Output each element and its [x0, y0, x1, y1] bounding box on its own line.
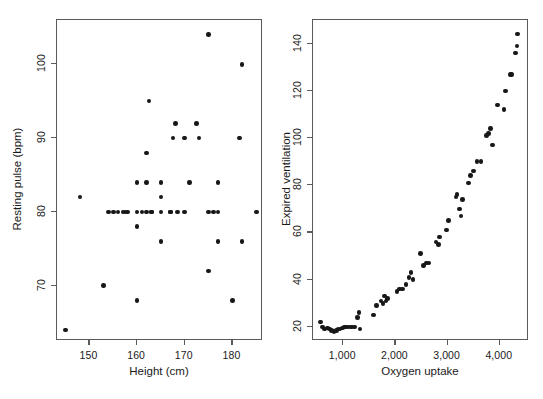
y-axis-tick-label-left: 100: [35, 54, 47, 72]
data-point: [515, 44, 520, 49]
data-point: [490, 143, 495, 148]
data-point: [502, 107, 507, 112]
x-axis-tick-left: [136, 340, 137, 345]
x-axis-tick-left: [231, 340, 232, 345]
data-point: [385, 296, 390, 301]
data-point: [111, 210, 116, 215]
data-point: [175, 210, 180, 215]
data-point: [488, 126, 493, 131]
data-point: [437, 235, 442, 240]
data-point: [144, 151, 149, 156]
x-axis-tick-right: [447, 340, 448, 345]
x-axis-tick-left: [88, 340, 89, 345]
y-axis-tick-right: [307, 43, 312, 44]
data-point: [455, 192, 460, 197]
data-point: [358, 327, 363, 332]
data-point: [194, 121, 199, 126]
y-axis-tick-label-right: 60: [291, 225, 303, 237]
data-point: [371, 313, 376, 318]
x-axis-tick-label-left: 170: [175, 349, 193, 361]
x-axis-title-right: Oxygen uptake: [381, 365, 458, 377]
data-point: [404, 282, 409, 287]
data-point: [400, 287, 405, 292]
data-point: [135, 180, 140, 185]
data-point: [509, 72, 514, 77]
data-point: [240, 239, 245, 244]
data-point: [468, 173, 473, 178]
plot-frame-left: [56, 19, 262, 340]
y-axis-tick-label-right: 20: [291, 320, 303, 332]
y-axis-tick-right: [307, 279, 312, 280]
y-axis-title-left: Resting pulse (bpm): [11, 128, 23, 231]
data-point: [479, 159, 484, 164]
data-point: [159, 239, 164, 244]
x-axis-tick-label-left: 180: [223, 349, 241, 361]
data-point: [446, 218, 451, 223]
y-axis-tick-right: [307, 326, 312, 327]
data-point: [444, 228, 449, 233]
data-point: [216, 180, 221, 185]
y-axis-tick-label-left: 90: [35, 131, 47, 143]
data-point: [459, 214, 464, 219]
data-point: [513, 51, 518, 56]
data-point: [471, 169, 476, 174]
data-point: [436, 242, 441, 247]
data-point: [159, 180, 164, 185]
plot-frame-right: [312, 19, 528, 340]
y-axis-tick-left: [51, 211, 56, 212]
data-point: [418, 251, 423, 256]
data-point: [427, 261, 432, 266]
x-axis-tick-label-right: 3,000: [433, 349, 460, 361]
y-axis-tick-right: [307, 137, 312, 138]
panel-resting-pulse: 150160170180708090100 Height (cm) Restin…: [0, 0, 272, 399]
data-point: [240, 62, 245, 67]
x-axis-tick-label-left: 150: [80, 349, 98, 361]
data-point: [144, 180, 149, 185]
y-axis-tick-left: [51, 63, 56, 64]
y-axis-tick-label-left: 70: [35, 279, 47, 291]
data-point: [409, 270, 414, 275]
data-point: [78, 195, 83, 200]
scatterplot-figure: 150160170180708090100 Height (cm) Restin…: [0, 0, 543, 399]
data-point: [182, 210, 187, 215]
y-axis-tick-label-right: 120: [291, 81, 303, 99]
data-point: [503, 89, 508, 94]
data-point: [182, 136, 187, 141]
data-point: [254, 210, 259, 215]
data-point: [63, 328, 68, 333]
data-point: [466, 181, 471, 186]
data-point: [168, 210, 173, 215]
data-point: [352, 325, 357, 330]
y-axis-tick-label-right: 140: [291, 34, 303, 52]
x-axis-tick-label-right: 2,000: [381, 349, 408, 361]
data-point: [237, 136, 242, 141]
x-axis-tick-right: [394, 340, 395, 345]
data-point: [206, 269, 211, 274]
data-point: [149, 210, 154, 215]
x-axis-title-left: Height (cm): [129, 365, 188, 377]
x-axis-tick-right: [342, 340, 343, 345]
y-axis-tick-right: [307, 90, 312, 91]
data-point: [357, 310, 362, 315]
x-axis-tick-right: [499, 340, 500, 345]
data-point: [159, 210, 164, 215]
y-axis-tick-label-left: 80: [35, 205, 47, 217]
data-point: [135, 224, 140, 229]
data-points-left: [57, 20, 261, 339]
data-point: [159, 195, 164, 200]
data-point: [515, 32, 520, 37]
data-point: [355, 315, 360, 320]
data-point: [216, 210, 221, 215]
data-point: [318, 320, 323, 325]
y-axis-tick-label-right: 40: [291, 273, 303, 285]
data-point: [460, 197, 465, 202]
y-axis-tick-left: [51, 285, 56, 286]
data-point: [135, 210, 140, 215]
data-point: [230, 298, 235, 303]
panel-expired-ventilation: 1,0002,0003,0004,00020406080100120140 Ox…: [272, 0, 543, 399]
data-point: [495, 103, 500, 108]
data-point: [171, 136, 176, 141]
data-point: [206, 32, 211, 37]
x-axis-tick-label-left: 160: [127, 349, 145, 361]
data-point: [173, 121, 178, 126]
